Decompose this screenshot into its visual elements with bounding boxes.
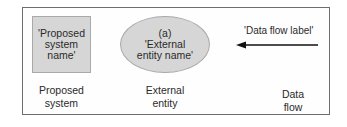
caption-proposed-system: Proposed system: [32, 84, 91, 110]
caption-line: system: [32, 97, 91, 110]
caption-line: External: [130, 84, 200, 97]
arrow-left-icon: [236, 40, 318, 50]
proposed-system-symbol: 'Proposed system name': [32, 16, 91, 73]
caption-line: flow: [268, 101, 318, 114]
caption-external-entity: External entity: [130, 84, 200, 110]
symbol-text: name': [38, 50, 85, 61]
caption-line: Data: [268, 88, 318, 101]
data-flow-label: 'Data flow label': [244, 25, 313, 36]
caption-line: entity: [130, 97, 200, 110]
symbol-text: entity name': [137, 50, 193, 61]
caption-line: Proposed: [32, 84, 91, 97]
caption-data-flow: Data flow: [268, 88, 318, 114]
external-entity-symbol: (a) 'External entity name': [120, 16, 210, 73]
